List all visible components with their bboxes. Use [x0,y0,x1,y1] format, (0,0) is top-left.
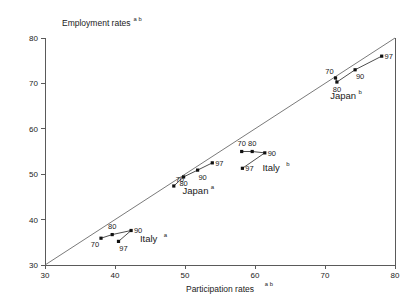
y-tick-label: 60 [29,125,38,134]
scatter-chart: 304050607080304050607080 70809097Italya7… [0,0,420,306]
series-connector [101,231,131,242]
x-tick-label: 60 [251,271,260,280]
data-point-marker [334,76,337,79]
data-point-marker [111,233,114,236]
x-tick-label: 30 [41,271,50,280]
x-tick-label: 50 [181,271,190,280]
data-point-marker [354,68,357,71]
data-point-label: 97 [215,159,223,168]
series-label-japan-a: Japan [183,185,209,196]
data-point-marker [241,167,244,170]
x-tick-label: 40 [111,271,120,280]
data-point-label: 97 [245,164,253,173]
data-point-label: 80 [108,222,116,231]
data-point-label: 90 [198,173,206,182]
data-point-label: 97 [385,52,393,61]
data-point-marker [251,150,254,153]
x-tick-label: 80 [391,271,400,280]
y-tick-label: 40 [29,216,38,225]
data-point-marker [196,169,199,172]
data-point-marker [182,175,185,178]
series-label-superscript: b [358,89,362,95]
series-italy-a: 70809097Italya [91,222,168,253]
y-tick-label: 80 [29,34,38,43]
reference-line-45-degree [45,38,395,265]
data-point-label: 70 [91,240,99,249]
data-point-label: 90 [356,72,364,81]
x-axis-title-superscript: a b [265,281,273,287]
data-point-marker [240,150,243,153]
series-label-superscript: a [211,184,215,190]
data-point-marker [99,237,102,240]
45-degree-line-path [45,38,395,265]
data-point-marker [263,151,266,154]
series-japan-b: 70809097Japanb [325,52,393,101]
data-point-label: 70 [238,139,246,148]
data-point-label: 80 [248,139,256,148]
series-label-superscript: a [164,232,168,238]
x-axis-title: Participation rates [186,284,254,294]
data-point-marker [130,229,133,232]
y-axis-title-superscript: a b [134,16,142,22]
series-label-japan-b: Japan [330,90,356,101]
data-point-label: 70 [325,67,333,76]
data-point-marker [172,184,175,187]
y-tick-label: 70 [29,79,38,88]
x-tick-label: 70 [321,271,330,280]
data-point-marker [117,240,120,243]
axis-titles: Employment ratesa bParticipation ratesa … [62,16,273,294]
series-label-superscript: b [286,161,290,167]
data-point-label: 97 [119,244,127,253]
series-label-italy-b: Italy [262,162,280,173]
data-point-marker [335,80,338,83]
data-series-group: 70809097Italya70809097Japana70809097Ital… [91,52,393,253]
y-tick-label: 30 [29,261,38,270]
data-point-marker [211,161,214,164]
data-point-marker [380,55,383,58]
plot-canvas: 304050607080304050607080 70809097Italya7… [0,0,420,306]
y-axis-title: Employment rates [62,18,131,28]
data-point-label: 90 [268,149,276,158]
y-tick-label: 50 [29,170,38,179]
series-label-italy-a: Italy [140,233,158,244]
series-japan-a: 70809097Japana [172,159,223,196]
series-italy-b: 70809097Italyb [238,139,291,173]
